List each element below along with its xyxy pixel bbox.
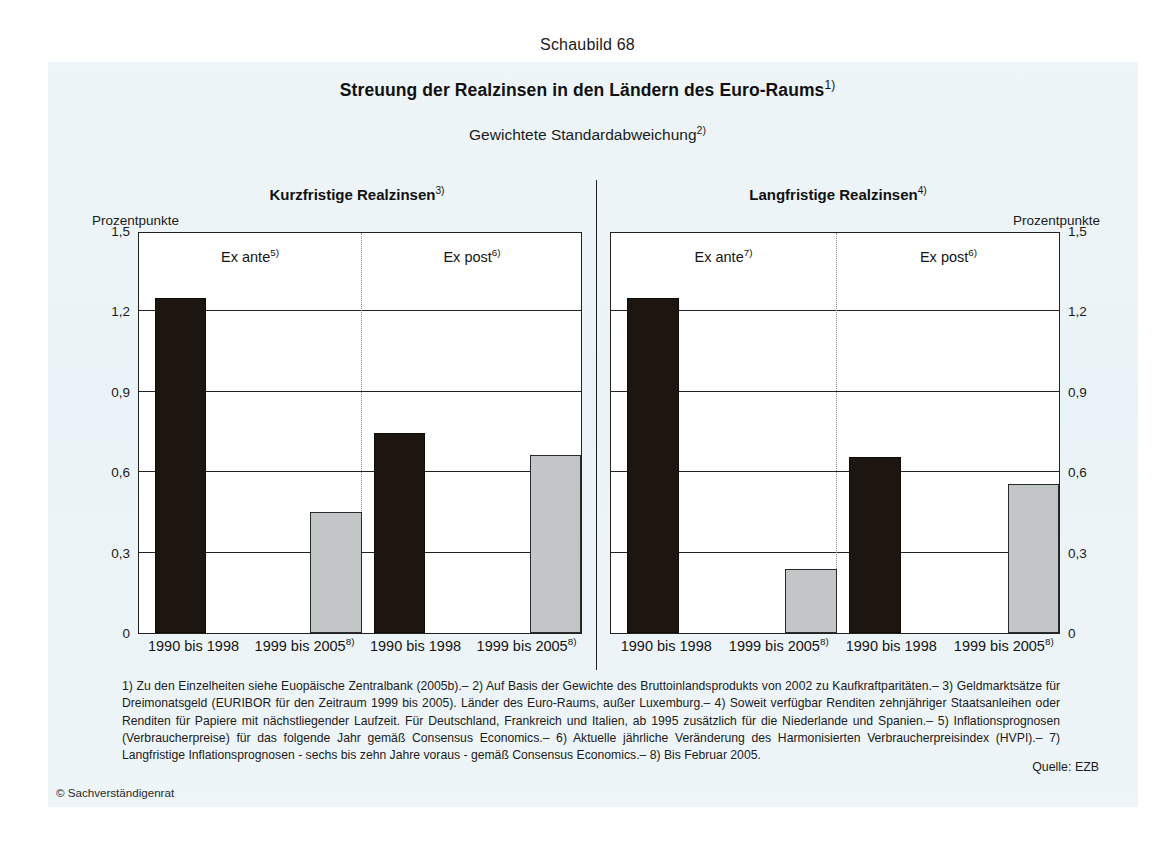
- x-axis-label-left-2: 1990 bis 1998: [360, 638, 471, 654]
- x-axis-label-footnote-marker: 8): [346, 636, 355, 647]
- y-axis-tick-left-1,2: 1,2: [90, 305, 130, 319]
- subtitle-footnote-marker: 2): [697, 124, 706, 136]
- figure-number: Schaubild 68: [0, 36, 1175, 54]
- y-axis-tick-right-0,9: 0,9: [1068, 386, 1108, 400]
- x-axis-label-right-1: 1999 bis 20058): [723, 638, 836, 654]
- x-axis-label-text: 1999 bis 2005: [729, 638, 820, 654]
- plot-area-right: Ex ante7)Ex post6): [610, 232, 1060, 634]
- group-label-text: Ex ante: [695, 249, 744, 265]
- group-label-right-1: Ex post6): [836, 249, 1061, 265]
- footnotes: 1) Zu den Einzelheiten siehe Euopäische …: [122, 678, 1060, 765]
- page-subtitle: Gewichtete Standardabweichung2): [0, 126, 1175, 144]
- y-axis-tick-right-0,6: 0,6: [1068, 466, 1108, 480]
- x-axis-label-right-3: 1999 bis 20058): [948, 638, 1061, 654]
- panel-title-left-text: Kurzfristige Realzinsen: [270, 186, 436, 203]
- x-axis-label-footnote-marker: 8): [820, 636, 829, 647]
- x-axis-label-left-0: 1990 bis 1998: [138, 638, 249, 654]
- x-axis-label-text: 1990 bis 1998: [370, 638, 461, 654]
- x-axis-label-footnote-marker: 8): [568, 636, 577, 647]
- x-axis-label-text: 1990 bis 1998: [148, 638, 239, 654]
- x-axis-label-text: 1990 bis 1998: [846, 638, 937, 654]
- x-axis-label-right-0: 1990 bis 1998: [610, 638, 723, 654]
- bar-right-0: [627, 298, 679, 633]
- panel-title-left-footnote-marker: 3): [435, 185, 444, 196]
- x-axis-label-footnote-marker: 8): [1045, 636, 1054, 647]
- source-note: Quelle: EZB: [1032, 760, 1099, 774]
- group-label-text: Ex ante: [221, 249, 270, 265]
- main-title-footnote-marker: 1): [824, 78, 835, 92]
- panel-title-right-text: Langfristige Realzinsen: [749, 186, 917, 203]
- y-axis-tick-left-0,9: 0,9: [90, 386, 130, 400]
- group-label-footnote-marker: 6): [968, 247, 977, 258]
- x-axis-label-text: 1999 bis 2005: [954, 638, 1045, 654]
- x-axis-label-text: 1999 bis 2005: [477, 638, 568, 654]
- x-axis-label-text: 1999 bis 2005: [255, 638, 346, 654]
- y-axis-tick-right-0: 0: [1068, 627, 1108, 641]
- group-label-text: Ex post: [920, 249, 968, 265]
- panel-divider: [596, 180, 597, 670]
- figure-page: Schaubild 68 Streuung der Realzinsen in …: [0, 0, 1175, 842]
- subtitle-text: Gewichtete Standardabweichung: [469, 126, 696, 143]
- x-axis-label-text: 1990 bis 1998: [621, 638, 712, 654]
- chart-panel-kurzfristige: Kurzfristige Realzinsen3) Prozentpunkte …: [92, 180, 582, 660]
- y-axis-tick-left-0,6: 0,6: [90, 466, 130, 480]
- bar-left-0: [155, 298, 206, 633]
- panel-title-right: Langfristige Realzinsen4): [610, 186, 1100, 203]
- bar-left-2: [374, 433, 425, 633]
- y-axis-tick-right-1,5: 1,5: [1068, 225, 1108, 239]
- x-axis-label-left-3: 1999 bis 20058): [471, 638, 582, 654]
- group-label-left-0: Ex ante5): [139, 249, 361, 265]
- group-label-footnote-marker: 5): [270, 247, 279, 258]
- y-axis-tick-left-0: 0: [90, 627, 130, 641]
- copyright-note: © Sachverständigenrat: [56, 786, 174, 799]
- group-label-right-0: Ex ante7): [611, 249, 836, 265]
- y-axis-tick-right-1,2: 1,2: [1068, 305, 1108, 319]
- group-label-footnote-marker: 7): [744, 247, 753, 258]
- group-label-footnote-marker: 6): [492, 247, 501, 258]
- bar-right-1: [785, 569, 837, 633]
- group-label-left-1: Ex post6): [361, 249, 583, 265]
- page-title: Streuung der Realzinsen in den Ländern d…: [0, 80, 1175, 101]
- x-axis-label-left-1: 1999 bis 20058): [249, 638, 360, 654]
- panel-title-right-footnote-marker: 4): [918, 185, 927, 196]
- plot-area-left: Ex ante5)Ex post6): [138, 232, 582, 634]
- x-axis-label-right-2: 1990 bis 1998: [835, 638, 948, 654]
- group-label-text: Ex post: [443, 249, 491, 265]
- bar-left-3: [530, 455, 581, 633]
- y-axis-tick-left-0,3: 0,3: [90, 547, 130, 561]
- bar-right-2: [849, 457, 901, 633]
- bar-right-3: [1008, 484, 1060, 633]
- panel-title-left: Kurzfristige Realzinsen3): [92, 186, 582, 203]
- main-title-text: Streuung der Realzinsen in den Ländern d…: [340, 80, 825, 100]
- chart-panel-langfristige: Langfristige Realzinsen4) Prozentpunkte …: [610, 180, 1100, 660]
- bar-left-1: [310, 512, 361, 633]
- y-axis-tick-left-1,5: 1,5: [90, 225, 130, 239]
- y-axis-tick-right-0,3: 0,3: [1068, 547, 1108, 561]
